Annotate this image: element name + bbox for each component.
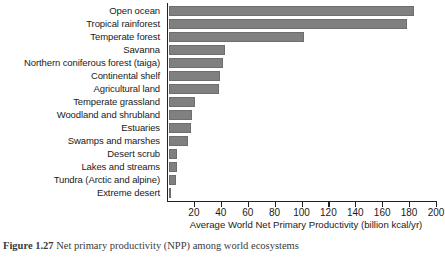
x-axis-tick: [382, 202, 383, 207]
bar: [169, 123, 191, 133]
x-axis-tick-labels: 20406080100120140160180200: [167, 207, 443, 219]
bar-row: [169, 30, 445, 43]
bar: [169, 84, 219, 94]
x-axis-tick: [355, 202, 356, 207]
bar-row: [169, 121, 445, 134]
x-axis-tick-label: 200: [428, 207, 445, 218]
bar: [169, 136, 188, 146]
x-axis-tick: [221, 202, 222, 207]
bar-row: [169, 43, 445, 56]
bar: [169, 19, 407, 29]
bar: [169, 175, 176, 185]
category-label: Temperate forest: [0, 30, 164, 43]
bar: [169, 58, 223, 68]
category-label: Open ocean: [0, 4, 164, 17]
bar: [169, 45, 225, 55]
x-axis-tick-label: 20: [188, 207, 199, 218]
bar-row: [169, 4, 445, 17]
x-axis-tick-label: 80: [269, 207, 280, 218]
bar: [169, 32, 304, 42]
bar: [169, 110, 192, 120]
bar-series: [169, 4, 445, 199]
figure-number: Figure 1.27: [3, 240, 54, 251]
category-label: Tropical rainforest: [0, 17, 164, 30]
x-axis-tick-label: 120: [320, 207, 337, 218]
bar-row: [169, 69, 445, 82]
category-label: Lakes and streams: [0, 160, 164, 173]
category-label: Temperate grassland: [0, 95, 164, 108]
x-axis-tick: [436, 202, 437, 207]
bar-row: [169, 134, 445, 147]
x-axis-tick-label: 100: [293, 207, 310, 218]
bar-row: [169, 147, 445, 160]
bar: [169, 6, 414, 16]
category-label: Swamps and marshes: [0, 134, 164, 147]
x-axis-tick: [275, 202, 276, 207]
bar: [169, 162, 177, 172]
category-label: Tundra (Arctic and alpine): [0, 173, 164, 186]
category-label: Northern coniferous forest (taiga): [0, 56, 164, 69]
bar-row: [169, 186, 445, 199]
bar: [169, 149, 177, 159]
category-label: Agricultural land: [0, 82, 164, 95]
x-axis-tick-label: 140: [347, 207, 364, 218]
y-axis-line: [167, 3, 168, 201]
x-axis-tick: [248, 202, 249, 207]
x-axis-tick: [302, 202, 303, 207]
bar-row: [169, 82, 445, 95]
bar-chart: Open oceanTropical rainforestTemperate f…: [0, 0, 445, 206]
category-label: Savanna: [0, 43, 164, 56]
bar: [169, 188, 171, 198]
category-label: Extreme desert: [0, 186, 164, 199]
category-label: Woodland and shrubland: [0, 108, 164, 121]
figure-caption: Figure 1.27 Net primary productivity (NP…: [3, 240, 445, 251]
bar-row: [169, 95, 445, 108]
bar-row: [169, 56, 445, 69]
bar: [169, 97, 195, 107]
bar-row: [169, 160, 445, 173]
category-label: Estuaries: [0, 121, 164, 134]
x-axis-tick: [194, 202, 195, 207]
x-axis-title: Average World Net Primary Productivity (…: [167, 219, 445, 230]
x-axis-tick-label: 180: [401, 207, 418, 218]
x-axis-tick-label: 60: [242, 207, 253, 218]
x-axis-tick: [328, 202, 329, 207]
figure-caption-text: Net primary productivity (NPP) among wor…: [56, 240, 299, 251]
bar-row: [169, 108, 445, 121]
bar-row: [169, 173, 445, 186]
category-axis-labels: Open oceanTropical rainforestTemperate f…: [0, 4, 164, 199]
figure-container: Open oceanTropical rainforestTemperate f…: [0, 0, 445, 257]
category-label: Desert scrub: [0, 147, 164, 160]
x-axis-tick-label: 160: [374, 207, 391, 218]
x-axis-tick: [409, 202, 410, 207]
bar-row: [169, 17, 445, 30]
bar: [169, 71, 220, 81]
x-axis-tick-label: 40: [215, 207, 226, 218]
category-label: Continental shelf: [0, 69, 164, 82]
